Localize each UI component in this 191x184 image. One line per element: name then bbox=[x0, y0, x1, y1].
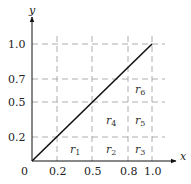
region-r1: r1 bbox=[70, 143, 80, 157]
x-tick-0.5: 0.5 bbox=[84, 165, 102, 178]
x-tick-1.0: 1.0 bbox=[144, 165, 162, 178]
origin-label: 0 bbox=[21, 165, 28, 178]
y-tick-0.2: 0.2 bbox=[8, 131, 26, 144]
y-axis-label: y bbox=[28, 4, 36, 17]
region-r4: r4 bbox=[106, 114, 116, 128]
region-r2: r2 bbox=[106, 143, 116, 157]
x-tick-0.2: 0.2 bbox=[49, 165, 67, 178]
region-r3: r3 bbox=[135, 143, 145, 157]
region-r6: r6 bbox=[135, 83, 145, 97]
region-r5: r5 bbox=[135, 114, 145, 128]
x-axis-label: x bbox=[180, 150, 187, 163]
y-tick-1.0: 1.0 bbox=[8, 38, 26, 51]
x-tick-0.8: 0.8 bbox=[120, 165, 138, 178]
y-tick-0.7: 0.7 bbox=[8, 73, 26, 86]
unit-square-diagram: y x 0 0.2 0.5 0.8 1.0 0.2 0.5 0.7 1.0 r1… bbox=[0, 0, 191, 184]
y-tick-0.5: 0.5 bbox=[8, 96, 26, 109]
